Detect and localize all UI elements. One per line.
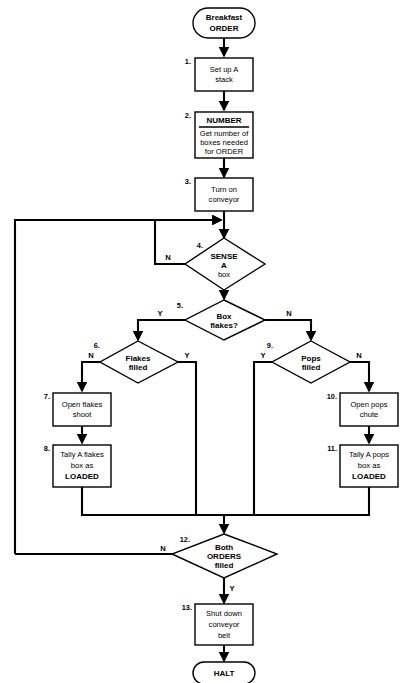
step-5-line1: Box (216, 312, 232, 321)
terminal-start-line1: Breakfast (206, 13, 243, 22)
branch-label-9-no: N (356, 351, 361, 360)
terminal-start-line2: ORDER (210, 24, 239, 33)
step-6-line1: Flakes (126, 354, 151, 363)
step-3-number: 3. (185, 177, 191, 186)
step-6-number: 6. (94, 341, 100, 350)
branch-9-no: N (350, 351, 369, 391)
terminal-halt-label: HALT (214, 669, 235, 678)
node-step-5: 5. Box flakes? (177, 300, 265, 340)
branch-9-yes: Y (254, 351, 272, 515)
branch-label-5-no: N (286, 309, 291, 318)
step-10-line1: Open pops (350, 400, 387, 409)
node-step-4: 4. SENSE A box (185, 238, 265, 290)
step-8-line3: LOADED (65, 472, 99, 481)
node-step-13: 13. Shut down conveyor belt (182, 603, 253, 645)
node-step-6: 6. Flakes filled (94, 341, 178, 383)
step-13-number: 13. (182, 603, 192, 612)
step-7-number: 7. (44, 392, 50, 401)
node-step-2: 2. NUMBER Get number of boxes needed for… (185, 111, 253, 158)
node-step-9: 9. Pops filled (267, 341, 350, 383)
branch-label-9-yes: Y (260, 351, 265, 360)
node-step-1: 1. Set up A stack (185, 57, 253, 91)
step-1-line2: stack (215, 75, 233, 84)
connector-11-to-merge (142, 487, 369, 515)
branch-label-5-yes: Y (157, 309, 162, 318)
node-step-8: 8. Tally A flakes box as LOADED (44, 444, 111, 487)
step-9-number: 9. (267, 341, 273, 350)
step-1-line1: Set up A (210, 65, 240, 74)
step-8-number: 8. (44, 444, 50, 453)
branch-6-yes: Y (178, 351, 196, 515)
step-11-line1: Tally A pops (349, 450, 389, 459)
step-12-line1: Both (215, 543, 233, 552)
step-5-number: 5. (177, 301, 183, 310)
step-2-header: NUMBER (206, 116, 241, 125)
step-2-line2: boxes needed (200, 138, 248, 147)
node-step-7: 7. Open flakes shoot (44, 392, 111, 426)
step-8-line1: Tally A flakes (60, 450, 104, 459)
connector-8-to-merge (82, 487, 307, 515)
step-4-number: 4. (197, 241, 203, 250)
step-2-line3: for ORDER (205, 147, 244, 156)
step-13-line1: Shut down (206, 609, 242, 618)
branch-6-no: N (82, 351, 100, 391)
flowchart-canvas: Breakfast ORDER 1. Set up A stack 2. NUM… (0, 0, 413, 683)
step-13-line2: conveyor (209, 620, 240, 629)
branch-label-12-yes: Y (229, 584, 234, 593)
step-2-number: 2. (185, 111, 191, 120)
step-10-number: 10. (327, 392, 337, 401)
step-9-line1: Pops (301, 354, 321, 363)
step-11-number: 11. (327, 444, 337, 453)
step-4-line3: box (218, 270, 230, 279)
node-step-10: 10. Open pops chute (327, 392, 398, 426)
step-5-line2: flakes? (210, 321, 238, 330)
terminal-start: Breakfast ORDER (193, 8, 255, 38)
step-11-line2: box as (358, 461, 381, 470)
step-12-line2: ORDERS (207, 552, 242, 561)
step-4-line1: SENSE (210, 252, 238, 261)
branch-12-yes: Y (224, 578, 235, 603)
step-13-line3: belt (218, 631, 231, 640)
step-7-line1: Open flakes (62, 400, 103, 409)
step-12-number: 12. (180, 535, 190, 544)
branch-label-6-yes: Y (184, 351, 189, 360)
step-11-line3: LOADED (352, 472, 386, 481)
step-3-line2: conveyor (209, 195, 240, 204)
terminal-halt: HALT (193, 662, 255, 683)
branch-label-12-no: N (160, 544, 165, 553)
step-4-line2: A (221, 261, 227, 270)
step-12-line3: filled (215, 561, 234, 570)
step-6-line2: filled (129, 363, 148, 372)
step-3-line1: Turn on (211, 185, 237, 194)
loop-outer-return (15, 220, 221, 554)
node-step-3: 3. Turn on conveyor (185, 177, 253, 211)
step-7-line2: shoot (73, 410, 92, 419)
step-9-line2: filled (302, 363, 321, 372)
step-8-line2: box as (71, 461, 94, 470)
step-1-number: 1. (185, 57, 191, 66)
step-2-line1: Get number of (200, 129, 249, 138)
node-step-11: 11. Tally A pops box as LOADED (327, 444, 398, 487)
branch-5-no: N (265, 309, 311, 340)
node-step-12: 12. Both ORDERS filled (172, 534, 277, 578)
branch-label-6-no: N (88, 351, 93, 360)
branch-5-yes: Y (138, 309, 185, 340)
branch-label-4-no: N (165, 253, 170, 262)
step-10-line2: chute (360, 410, 379, 419)
flowchart-svg: Breakfast ORDER 1. Set up A stack 2. NUM… (0, 0, 413, 683)
